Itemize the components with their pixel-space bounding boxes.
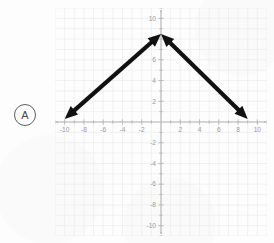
x-tick-label: 2 [178,126,182,133]
y-tick-label: 2 [152,98,156,105]
y-tick-label: -4 [150,160,156,167]
x-tick-label: 4 [198,126,202,133]
axes [56,10,266,234]
x-tick-label: -10 [60,126,70,133]
problem-label-a: A [14,104,36,126]
series-shaft [167,40,242,114]
x-tick-label: 8 [236,126,240,133]
x-tick-label: 10 [254,126,262,133]
x-tick-label: -8 [81,126,87,133]
x-tick-label: -6 [100,126,106,133]
worksheet-page: A -10-8-6-4-2246810-10-8-6-4-2246810 [0,0,274,243]
x-axis-end-cap [56,121,58,123]
y-axis-end-cap [160,232,162,234]
y-tick-label: -2 [150,139,156,146]
x-axis-end-cap [264,121,266,123]
y-tick-label: 10 [149,15,157,22]
y-tick-label: 4 [152,77,156,84]
coordinate-plane-chart: -10-8-6-4-2246810-10-8-6-4-2246810 [55,8,267,236]
x-tick-label: -2 [139,126,145,133]
y-tick-label: -8 [150,201,156,208]
graph-svg: -10-8-6-4-2246810-10-8-6-4-2246810 [55,8,267,236]
y-tick-label: -10 [146,222,156,229]
plotted-series [65,34,248,119]
x-tick-label: -4 [120,126,126,133]
x-tick-label: 6 [217,126,221,133]
y-axis-end-cap [160,10,162,12]
y-tick-label: -6 [150,180,156,187]
y-tick-label: 6 [152,56,156,63]
